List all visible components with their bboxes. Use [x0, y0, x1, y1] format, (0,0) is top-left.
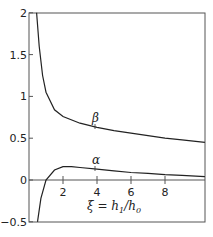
- x-axis-label: ξ = h1/h0: [87, 199, 141, 215]
- y-axis: 21.510.50−0.5: [0, 7, 33, 229]
- x-tick-label: 8: [162, 186, 169, 199]
- x-tick-label: 4: [94, 186, 101, 199]
- x-tick-label: 2: [60, 186, 67, 199]
- y-tick-label: 1.5: [10, 49, 28, 62]
- y-tick-label: 2: [20, 7, 27, 20]
- x-axis: 2468: [60, 176, 169, 199]
- y-tick-label: −0.5: [0, 216, 27, 229]
- y-tick-label: 0: [20, 174, 27, 187]
- chart: 21.510.50−0.5 2468 β α ξ = h1/h0: [0, 0, 213, 237]
- x-tick-label: 6: [128, 186, 135, 199]
- plot-frame: [29, 13, 205, 222]
- alpha-label: α: [92, 153, 100, 167]
- y-tick-label: 0.5: [10, 132, 28, 145]
- beta-label: β: [91, 111, 99, 125]
- y-tick-label: 1: [20, 90, 27, 103]
- beta-curve: [37, 13, 205, 143]
